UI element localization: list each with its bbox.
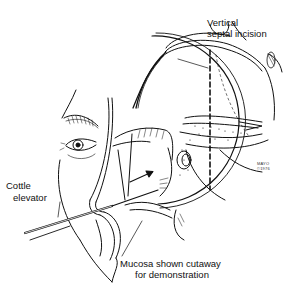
nasal-septum-drawing [0,0,303,287]
nasal-floor [180,116,268,200]
label-mucosa: Mucosa shown cutaway [120,258,221,269]
incision-leader-line [178,59,208,68]
direction-arrow [130,171,153,182]
operative-field [113,128,191,240]
signature-line2: ©1976 [257,167,270,172]
nasal-dorsum [133,52,166,108]
label-for-demonstration: for demonstration [135,269,209,280]
magnified-inset-circle [152,33,246,208]
label-cottle: Cottle [6,180,31,191]
mucosa-leader-line [122,221,142,256]
cottle-leader-line [58,202,60,217]
label-septal-incision: septal incision [207,28,267,39]
illustration: Vertical septal incision Cottle elevator… [0,0,303,287]
vertical-incision-dashes [210,50,248,190]
label-elevator: elevator [13,192,47,203]
face-profile [58,90,120,282]
label-vertical: Vertical [207,17,238,28]
